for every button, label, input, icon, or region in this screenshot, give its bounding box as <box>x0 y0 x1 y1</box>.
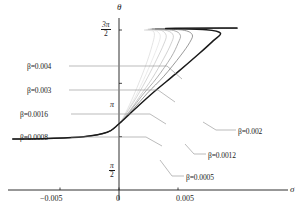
axes-group <box>8 18 288 200</box>
leader-beta-0004 <box>69 66 182 79</box>
series-label-beta-0002: β=0.002 <box>238 127 262 136</box>
leader-beta-00012 <box>185 144 206 154</box>
series-label-beta-00016: β=0.0016 <box>20 110 48 119</box>
leader-beta-00005 <box>160 160 184 176</box>
series-label-beta-00008: β=0.0008 <box>20 133 48 142</box>
x-axis-title: σ <box>290 184 294 194</box>
series-label-beta-0004: β=0.004 <box>27 62 51 71</box>
y-tick-pi: π <box>110 100 114 109</box>
leader-beta-00008 <box>71 137 162 146</box>
leader-beta-0003 <box>69 90 175 102</box>
y-tick-3pi2-denominator: 2 <box>101 30 111 38</box>
y-axis-title: θ <box>117 2 121 12</box>
leader-beta-0002 <box>203 122 236 130</box>
series-label-beta-0003: β=0.003 <box>27 86 51 95</box>
x-tick-0005: 0.005 <box>176 194 194 203</box>
series-label-beta-00005: β=0.0005 <box>186 173 214 182</box>
x-tick-neg-0005: −0.005 <box>40 194 63 203</box>
plot-canvas <box>0 0 305 218</box>
y-tick-pi2-denominator: 2 <box>109 171 115 179</box>
y-tick-pi-over-2: π 2 <box>109 162 115 178</box>
leader-beta-00016 <box>71 114 166 124</box>
x-tick-0: 0 <box>116 194 120 203</box>
bifurcation-diagram-figure: θ σ 3π 2 π π 2 −0.005 0 0.005 β=0.004 β=… <box>0 0 305 218</box>
y-tick-3pi-over-2: 3π 2 <box>101 21 111 37</box>
series-label-beta-00012: β=0.0012 <box>208 151 236 160</box>
